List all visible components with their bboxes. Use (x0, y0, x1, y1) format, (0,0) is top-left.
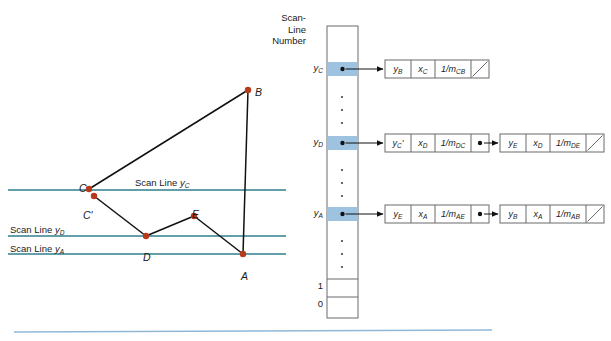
scan-table-ellipsis-1-0 (341, 169, 343, 171)
edge-node-cell-2-0-0: yE (385, 209, 411, 219)
value-subscript: C (397, 142, 402, 149)
scan-line-table-group (327, 26, 358, 318)
value-main: 1/m (556, 138, 571, 148)
edge-node-cell-2-1-0: yB (500, 209, 526, 219)
vertex-label-Cp: C' (83, 209, 93, 221)
bottom-rule-group (14, 330, 492, 332)
scan-table-header-line-0: Scan- (236, 12, 306, 24)
value-subscript: B (398, 68, 402, 75)
scan-table-ellipsis-0-1 (341, 109, 343, 111)
edge-node-cell-0-0-2: 1/mCB (435, 64, 471, 74)
polygon-edge-D-E (146, 216, 194, 236)
vertex-label-D: D (143, 251, 151, 263)
value-subscript: CB (456, 68, 465, 75)
polygon-edge-B-A (243, 90, 248, 254)
value-main: 1/m (441, 209, 456, 219)
scan-table-header-line-2: Number (236, 35, 306, 47)
vertex-B (245, 87, 251, 93)
scan-table-row-label-0: yC (303, 62, 323, 73)
value-main: y (55, 243, 60, 254)
scan-table-header-line-1: Line (236, 24, 306, 36)
value-main: y (180, 177, 185, 188)
value-subscript: D (60, 229, 65, 236)
scan-table-ellipsis-0-0 (341, 96, 343, 98)
scan-table-row-number: 1 (318, 280, 323, 291)
value-subscript: A (60, 248, 64, 255)
edge-node-cell-1-0-1: xD (411, 138, 435, 148)
scan-table-header: Scan-LineNumber (236, 12, 306, 47)
value-subscript: AE (456, 213, 465, 220)
value-subscript: D (538, 142, 543, 149)
scan-line-label-yC: Scan Line yC (135, 177, 189, 188)
value-subscript: C (318, 67, 323, 74)
edge-node-cell-1-0-0: yC' (385, 138, 411, 148)
value-subscript: C (423, 68, 428, 75)
edge-node-cell-1-1-0: yE (500, 138, 526, 148)
scan-line-label-yD: Scan Line yD (10, 224, 64, 235)
bottom-rule (14, 330, 492, 332)
scan-table-pointer-dot-0 (340, 67, 344, 71)
edge-node-cell-1-1-1: xD (526, 138, 550, 148)
polygon-edge-E-A (194, 216, 243, 254)
scan-table-ellipsis-1-2 (341, 195, 343, 197)
edge-node-cell-0-0-0: yB (385, 64, 411, 74)
value-subscript: DC (456, 142, 466, 149)
scan-line-label-yA: Scan Line yA (10, 243, 64, 254)
value-subscript: AB (571, 213, 580, 220)
value-main: y (314, 207, 319, 218)
scan-table-pointer-dot-2 (340, 212, 344, 216)
edge-node-cell-2-0-1: xA (411, 209, 435, 219)
edge-node-cell-0-0-1: xC (411, 64, 435, 74)
edge-node-next-pointer-1-0 (478, 141, 482, 145)
scan-table-row-number: 0 (318, 298, 323, 309)
value-subscript: A (423, 213, 427, 220)
scan-table-ellipsis-0-2 (341, 122, 343, 124)
vertex-D (143, 233, 149, 239)
value-subscript: B (513, 213, 517, 220)
vertex-label-C: C (79, 182, 87, 194)
scan-table-ellipsis-1-1 (341, 182, 343, 184)
edge-node-next-pointer-2-0 (478, 212, 482, 216)
value-subscript: D (423, 142, 428, 149)
figure-canvas: Scan Line yCScan Line yDScan Line yABCC'… (0, 0, 611, 341)
prime-mark: ' (402, 138, 404, 148)
polygon-vertex-group (86, 87, 251, 257)
value-main: y (55, 224, 60, 235)
scan-table-row-label-2: yA (303, 207, 323, 218)
polygon-edge-C-B (89, 90, 248, 189)
edge-node-cell-2-1-2: 1/mAB (550, 209, 586, 219)
value-main: 1/m (556, 209, 571, 219)
value-main: 1/m (441, 138, 456, 148)
value-subscript: C (185, 182, 190, 189)
vertex-label-E: E (192, 208, 199, 220)
scan-table-row-label-4: 0 (303, 298, 323, 309)
vertex-A (240, 251, 246, 257)
edge-node-cell-2-1-1: xA (526, 209, 550, 219)
value-subscript: DE (571, 142, 580, 149)
edge-node-cell-1-0-2: 1/mDC (435, 138, 471, 148)
value-subscript: D (318, 141, 323, 148)
scan-line-label-text: Scan Line (10, 243, 55, 254)
scan-table-ellipsis-2-0 (341, 240, 343, 242)
value-subscript: A (319, 212, 323, 219)
value-subscript: A (538, 213, 542, 220)
value-subscript: E (398, 213, 402, 220)
scan-line-label-text: Scan Line (135, 177, 180, 188)
value-subscript: E (513, 142, 517, 149)
vertex-Cp (91, 193, 97, 199)
scan-table-ellipsis-2-2 (341, 266, 343, 268)
scan-table-row-label-3: 1 (303, 280, 323, 291)
polygon-edge-Cp-D (94, 196, 146, 236)
scan-table-ellipsis-2-1 (341, 253, 343, 255)
scan-line-label-text: Scan Line (10, 224, 55, 235)
edge-node-cell-1-1-2: 1/mDE (550, 138, 586, 148)
vertex-label-A: A (241, 270, 248, 282)
edge-node-cell-2-0-2: 1/mAE (435, 209, 471, 219)
scan-table-pointer-dot-1 (340, 141, 344, 145)
vertex-label-B: B (255, 86, 262, 98)
scan-table-row-label-1: yD (303, 136, 323, 147)
polygon-edge-group (89, 90, 248, 254)
value-main: 1/m (441, 64, 456, 74)
